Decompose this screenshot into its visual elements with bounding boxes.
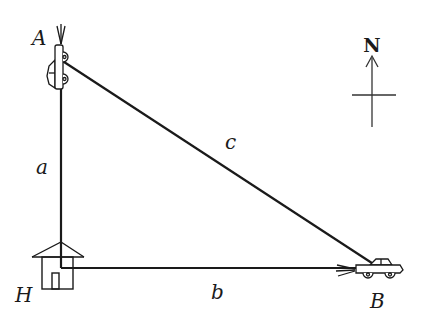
diagram-canvas: N A H B a b c (0, 0, 422, 322)
side-b-label: b (211, 280, 224, 304)
side-c-label: c (225, 130, 236, 154)
car-a-icon (47, 24, 68, 89)
vertex-h-label: H (14, 283, 33, 307)
side-c-line (61, 60, 378, 267)
vertex-b-label: B (369, 289, 385, 313)
compass-icon (352, 56, 396, 127)
house-icon (32, 242, 84, 289)
side-a-label: a (36, 155, 48, 179)
north-label: N (363, 34, 380, 56)
vertex-a-label: A (30, 26, 46, 50)
